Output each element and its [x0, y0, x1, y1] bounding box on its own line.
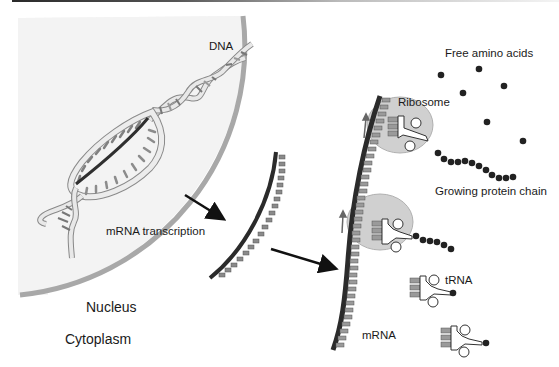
label-free-amino-acids: Free amino acids — [445, 48, 533, 60]
label-dna: DNA — [209, 41, 233, 53]
label-trna: tRNA — [445, 275, 472, 287]
label-nucleus: Nucleus — [86, 300, 137, 314]
free-trna-2 — [441, 325, 489, 357]
label-growing-protein-chain: Growing protein chain — [435, 186, 547, 198]
label-mrna-transcription: mRNA transcription — [106, 226, 205, 238]
growing-protein-chain-2 — [413, 233, 455, 253]
free-amino-acids — [438, 66, 527, 145]
label-ribosome: Ribosome — [398, 97, 450, 109]
label-mrna: mRNA — [362, 330, 396, 342]
arrow-export — [271, 249, 334, 268]
arrow-transcription — [185, 195, 222, 218]
nucleus — [18, 16, 245, 295]
growing-protein-chain-1 — [435, 150, 517, 182]
label-cytoplasm: Cytoplasm — [65, 332, 131, 346]
mrna-strand-nucleus — [210, 152, 285, 278]
